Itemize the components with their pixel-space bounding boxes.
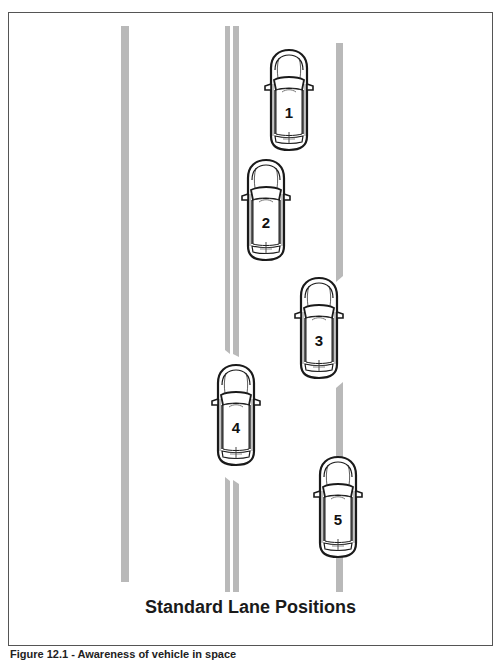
vehicle-label: 4 (232, 419, 241, 436)
center-double-line-a-upper (225, 26, 230, 354)
vehicle-5: 5 (314, 457, 362, 557)
vehicle-label: 3 (315, 332, 323, 349)
vehicle-2: 2 (242, 160, 290, 260)
vehicle-4: 4 (212, 365, 260, 465)
vehicle-label: 2 (262, 214, 270, 231)
left-edge-line (121, 26, 129, 582)
center-double-line-b-lower (233, 480, 239, 592)
center-double-line-b-upper (233, 26, 239, 357)
diagram-title: Standard Lane Positions (8, 597, 493, 618)
vehicle-label: 5 (334, 511, 342, 528)
right-lane-line-upper (336, 43, 343, 282)
vehicle-label: 1 (285, 104, 293, 121)
center-double-line-a-lower (225, 477, 230, 592)
vehicle-1: 1 (265, 50, 313, 150)
vehicle-3: 3 (295, 278, 343, 378)
figure-caption: Figure 12.1 - Awareness of vehicle in sp… (10, 648, 236, 660)
